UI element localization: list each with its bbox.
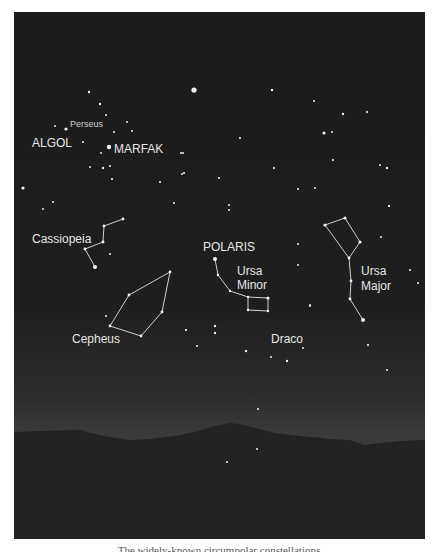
label-ursa-major-2: Major xyxy=(361,280,391,293)
label-cassiopeia: Cassiopeia xyxy=(32,233,91,246)
label-draco: Draco xyxy=(271,333,303,346)
ursa-major-lines xyxy=(325,218,360,258)
cepheus-lines xyxy=(110,272,170,336)
night-sky-image: Perseus ALGOL MARFAK Cassiopeia POLARIS … xyxy=(14,12,425,539)
label-ursa-minor-1: Ursa xyxy=(237,265,262,278)
mountain-silhouette xyxy=(14,423,425,539)
label-polaris: POLARIS xyxy=(203,241,255,254)
label-perseus: Perseus xyxy=(70,118,103,131)
label-ursa-major-1: Ursa xyxy=(361,265,386,278)
figure-caption: The widely-known circumpolar constellati… xyxy=(0,544,438,552)
label-marfak: MARFAK xyxy=(114,143,163,156)
label-ursa-minor-2: Minor xyxy=(237,279,267,292)
label-algol: ALGOL xyxy=(32,137,72,150)
label-cepheus: Cepheus xyxy=(72,333,120,346)
